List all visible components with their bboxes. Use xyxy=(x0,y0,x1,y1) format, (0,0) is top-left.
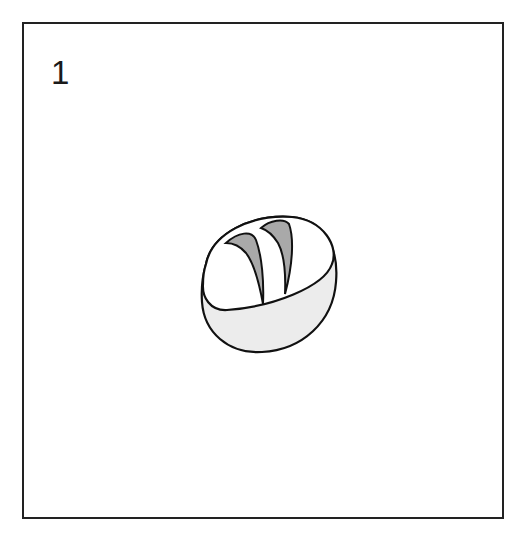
panel-frame: 1 xyxy=(22,22,504,519)
bread-loaf-icon xyxy=(24,24,502,517)
